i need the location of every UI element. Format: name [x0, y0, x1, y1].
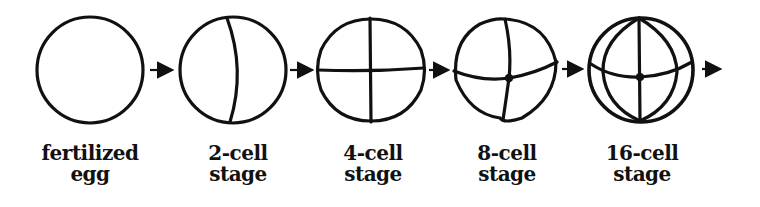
label-line-1: 4-cell	[308, 143, 438, 164]
label-line-2: stage	[308, 164, 438, 185]
label-8-cell: 8-cell stage	[442, 143, 572, 185]
label-line-1: 8-cell	[442, 143, 572, 164]
label-4-cell: 4-cell stage	[308, 143, 438, 185]
label-line-2: egg	[25, 164, 155, 185]
label-line-2: stage	[173, 164, 303, 185]
label-line-1: fertilized	[25, 143, 155, 164]
label-fertilized-egg: fertilized egg	[25, 143, 155, 185]
label-line-2: stage	[577, 164, 707, 185]
sixteen-cell-embryo	[589, 18, 693, 122]
label-2-cell: 2-cell stage	[173, 143, 303, 185]
label-line-2: stage	[442, 164, 572, 185]
four-cell-embryo	[318, 18, 425, 122]
fertilized-egg-cell	[37, 17, 143, 123]
label-line-1: 2-cell	[173, 143, 303, 164]
two-cell-embryo	[180, 17, 286, 123]
label-line-1: 16-cell	[577, 143, 707, 164]
eight-cell-embryo	[454, 19, 557, 121]
label-16-cell: 16-cell stage	[577, 143, 707, 185]
